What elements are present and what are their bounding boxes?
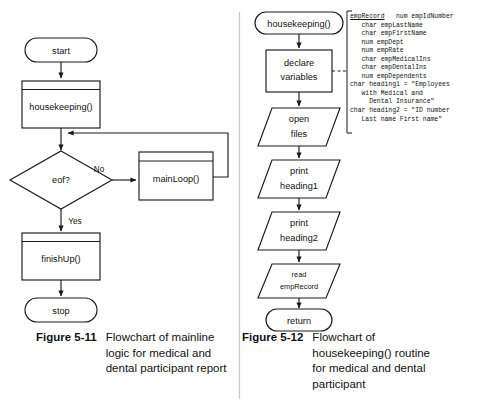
emprecord-annotation: empRecord num empIdNumber char empLastNa… xyxy=(350,13,476,124)
branch-label-no: No xyxy=(94,165,105,174)
node-housekeeping-start-label: housekeeping() xyxy=(267,19,330,29)
node-start-label: start xyxy=(52,46,70,56)
node-declare-variables xyxy=(266,50,332,92)
node-declare-variables-label-1: declare xyxy=(284,58,314,68)
caption-figure-5-11: Figure 5-11 Flowchart of mainline logic … xyxy=(36,330,236,377)
caption-figure-5-12-label: Figure 5-12 xyxy=(242,330,303,346)
caption-figure-5-11-label: Figure 5-11 xyxy=(36,330,97,346)
node-read-emprecord-label-2: empRecord xyxy=(280,282,318,291)
emprecord-annotation-head: empRecord xyxy=(350,13,385,20)
node-return-label: return xyxy=(287,316,311,326)
node-finishup-label: finishUp() xyxy=(41,254,80,264)
node-declare-variables-label-2: variables xyxy=(281,72,318,82)
caption-figure-5-12-text: Flowchart of housekeeping() routine for … xyxy=(312,330,440,392)
node-mainloop-label: mainLoop() xyxy=(153,174,199,184)
node-print-heading1-label-2: heading1 xyxy=(280,181,318,191)
figure-pair-root: start housekeeping() eof? No mainLoop() … xyxy=(0,0,477,407)
node-housekeeping-label: housekeeping() xyxy=(29,102,92,112)
node-read-emprecord-label-1: read xyxy=(292,270,307,279)
caption-figure-5-12: Figure 5-12 Flowchart of housekeeping() … xyxy=(242,330,474,392)
node-open-files-label-1: open xyxy=(289,114,309,124)
node-open-files-label-2: files xyxy=(291,129,308,139)
node-print-heading2-label-2: heading2 xyxy=(280,233,318,243)
caption-figure-5-11-text: Flowchart of mainline logic for medical … xyxy=(106,330,234,377)
node-stop-label: stop xyxy=(52,306,69,316)
emprecord-annotation-body: num empIdNumber char empLastName char em… xyxy=(350,13,454,123)
branch-label-yes: Yes xyxy=(68,217,81,226)
node-eof-label: eof? xyxy=(52,175,70,185)
node-print-heading2-label-1: print xyxy=(290,218,308,228)
node-print-heading1-label-1: print xyxy=(290,166,308,176)
